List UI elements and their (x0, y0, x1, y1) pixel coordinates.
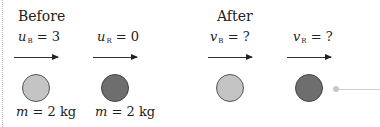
mass-value: = 2 kg (107, 104, 155, 119)
after-velocity-R-label: vR = ? (293, 29, 333, 45)
velocity-value: = ? (224, 29, 250, 44)
velocity-value: = 0 (112, 29, 139, 44)
before-ball-R (101, 74, 129, 102)
velocity-value: = 3 (33, 29, 60, 44)
before-arrow-B-icon (14, 57, 58, 58)
left-dotted-border (2, 0, 3, 127)
after-arrow-B-icon (208, 57, 252, 58)
velocity-symbol: u (97, 29, 105, 44)
after-ball-R (295, 74, 323, 102)
before-velocity-R-label: uR = 0 (97, 29, 139, 45)
before-mass-R-label: m = 2 kg (95, 104, 155, 119)
slider-track[interactable] (336, 89, 380, 90)
before-ball-B (22, 74, 50, 102)
velocity-value: = ? (307, 29, 333, 44)
before-velocity-B-label: uB = 3 (18, 29, 60, 45)
mass-symbol: m (16, 104, 28, 119)
after-velocity-B-label: vB = ? (210, 29, 250, 45)
mass-symbol: m (95, 104, 107, 119)
before-mass-B-label: m = 2 kg (16, 104, 76, 119)
velocity-symbol: u (18, 29, 26, 44)
after-arrow-R-icon (287, 57, 331, 58)
before-arrow-R-icon (93, 57, 137, 58)
after-heading: After (217, 8, 253, 24)
after-ball-B (216, 74, 244, 102)
slider-handle[interactable] (333, 86, 339, 92)
before-heading: Before (18, 8, 65, 24)
velocity-symbol: v (293, 29, 300, 44)
mass-value: = 2 kg (28, 104, 76, 119)
velocity-symbol: v (210, 29, 217, 44)
